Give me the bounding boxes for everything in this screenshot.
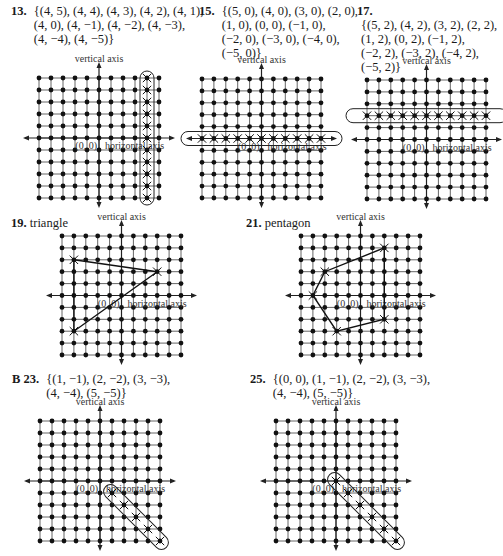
y-axis-label: vertical axis xyxy=(312,396,361,407)
arrow-down-icon xyxy=(334,545,339,551)
origin-label: (0, 0) xyxy=(312,483,334,495)
graph-25: vertical axis(0, 0)horizontal axis xyxy=(0,0,503,556)
arrow-right-icon xyxy=(406,479,412,484)
arrow-left-icon xyxy=(260,479,266,484)
x-axis-label: horizontal axis xyxy=(342,483,401,494)
